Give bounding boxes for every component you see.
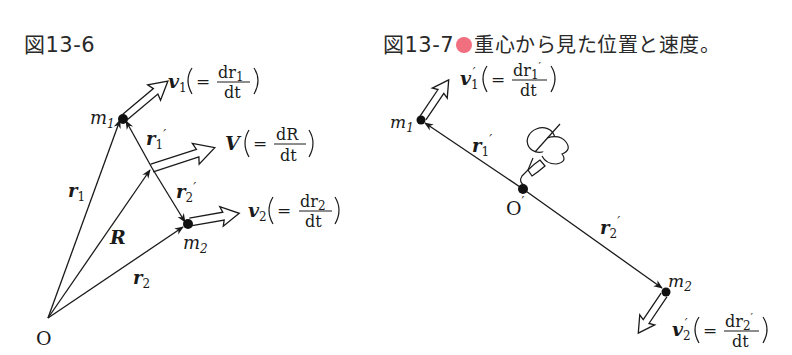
svg-text:dt: dt [224,83,241,102]
svg-text:dr1: dr1 [218,63,244,84]
figure-13-6: O m1 m2 r1 R r2 r1′ r2′ v1 = dr1 dt V = … [36,63,339,349]
vector-r2-prime [523,189,662,288]
svg-text:=: = [253,133,267,153]
svg-text:dr1′: dr1′ [513,60,542,82]
v1-prime-formula: v1′ = dr1′ dt [460,60,555,100]
r2-prime-label: r2′ [176,180,196,205]
svg-text:dt: dt [280,146,297,165]
r1-prime-label: r1′ [472,132,492,159]
origin-prime-label: O′ [506,194,525,219]
figure-13-7: m1 m2 O′ r1′ r2′ v1′ = dr1′ dt v2′ = dr2… [390,60,767,351]
svg-text:v2: v2 [248,199,267,224]
m1-label: m1 [90,107,115,131]
origin-label: O [36,327,52,349]
svg-text:v1: v1 [168,70,187,95]
center-of-mass-dot [518,184,528,194]
svg-text:dt: dt [305,212,322,231]
vector-r1 [48,120,120,318]
vector-R [48,170,150,318]
svg-text:dt: dt [732,332,749,351]
svg-text:dr2′: dr2′ [725,311,754,333]
R-label: R [109,226,126,248]
velocity-v2-prime-arrow [631,290,672,338]
observer-character-icon [521,124,569,186]
mass-m1-dot [118,114,128,124]
r1-label: r1 [68,180,85,204]
velocity-v2-arrow [188,203,241,231]
m2-label: m2 [183,232,208,256]
r2-label: r2 [133,267,150,291]
V-formula: V = dR dt [225,125,313,165]
m1-label: m1 [390,112,414,135]
svg-text:dt: dt [520,81,537,100]
diagram-canvas: O m1 m2 r1 R r2 r1′ r2′ v1 = dr1 dt V = … [0,0,792,355]
svg-text:=: = [703,320,717,340]
v2-formula: v2 = dr2 dt [248,192,339,231]
svg-text:v1′: v1′ [460,66,479,92]
mass-m2-dot [183,219,193,229]
svg-text:=: = [196,71,210,91]
v2-prime-formula: v2′ = dr2′ dt [672,311,767,351]
v1-formula: v1 = dr1 dt [168,63,258,102]
svg-text:dr2: dr2 [300,192,326,213]
vector-r1-prime [425,123,523,189]
svg-text:=: = [491,69,505,89]
svg-text:dR: dR [276,125,299,144]
mass-m1-dot [417,116,426,125]
svg-text:v2′: v2′ [672,317,691,343]
r1-prime-label: r1′ [146,127,166,152]
svg-text:=: = [277,200,291,220]
m2-label: m2 [668,271,692,294]
r2-prime-label: r2′ [600,214,620,241]
svg-text:V: V [225,132,242,154]
